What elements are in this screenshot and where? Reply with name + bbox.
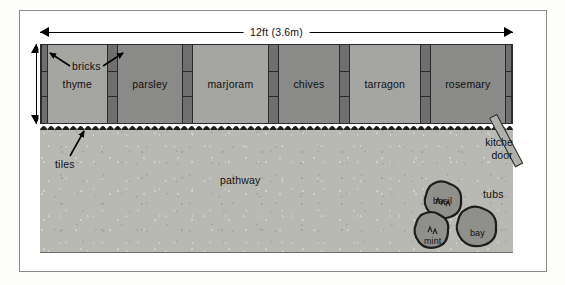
kitchen-door-label-line1: kitchen <box>485 136 513 148</box>
tubs-callout-label: tubs <box>483 188 504 200</box>
kitchen-door-label: kitchen door <box>476 136 513 162</box>
tub-label-basil: basil <box>433 196 452 206</box>
herb-bed-label: parsley <box>132 78 167 90</box>
pathway-label: pathway <box>220 174 261 186</box>
herb-bed-label: chives <box>293 78 324 90</box>
brick-divider <box>107 45 118 123</box>
herb-bed-rosemary: rosemary <box>431 45 505 123</box>
brick-divider <box>339 45 350 123</box>
herb-bed-chives: chives <box>279 45 339 123</box>
brick-divider <box>505 45 512 123</box>
kitchen-door-label-line2: door <box>491 149 512 161</box>
arrow-right-icon <box>504 27 513 37</box>
tile-edging <box>40 122 513 130</box>
brick-divider <box>41 45 48 123</box>
herb-bed-label: marjoram <box>207 78 253 90</box>
pathway-texture <box>40 128 513 252</box>
herb-bed-label: rosemary <box>445 78 490 90</box>
arrow-left-icon <box>40 27 49 37</box>
garden-plan-diagram: 12ft (3.6m) 2ft (0.6m) thyme parsley mar… <box>0 0 565 285</box>
herb-bed-marjoram: marjoram <box>193 45 268 123</box>
tub-label-mint: mint <box>424 236 441 246</box>
depth-dimension-line <box>36 44 37 124</box>
herb-bed-label: thyme <box>63 78 93 90</box>
brick-divider <box>420 45 431 123</box>
width-dimension: 12ft (3.6m) <box>40 23 513 41</box>
brick-divider <box>182 45 193 123</box>
brick-divider <box>268 45 279 123</box>
pathway-area: pathway tubs kitchen door <box>40 128 513 253</box>
width-dimension-label: 12ft (3.6m) <box>243 23 310 41</box>
bricks-callout-label: bricks <box>72 60 101 72</box>
herb-bed-label: tarragon <box>364 78 405 90</box>
tiles-callout-label: tiles <box>55 158 75 170</box>
herb-bed-row: thyme parsley marjoram chives tarragon r… <box>40 44 513 124</box>
herb-bed-tarragon: tarragon <box>350 45 420 123</box>
herb-bed-parsley: parsley <box>118 45 182 123</box>
herb-bed-thyme: thyme <box>48 45 107 123</box>
tub-label-bay: bay <box>470 228 485 238</box>
